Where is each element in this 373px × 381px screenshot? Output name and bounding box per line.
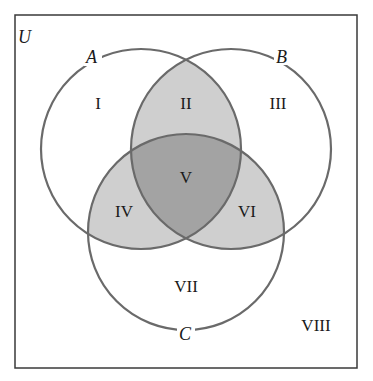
region-label-v: V <box>180 168 193 187</box>
region-label-vii: VII <box>174 277 198 296</box>
region-label-iii: III <box>270 94 287 113</box>
set-label-b: B <box>276 47 287 67</box>
region-label-i: I <box>95 94 101 113</box>
region-label-ii: II <box>180 94 192 113</box>
universe-label: U <box>18 27 32 47</box>
region-label-vi: VI <box>238 202 256 221</box>
region-label-iv: IV <box>115 202 134 221</box>
set-label-a: A <box>85 47 98 67</box>
set-label-c: C <box>179 324 192 344</box>
venn-diagram: U A B C I II III IV V VI VII VIII <box>0 0 373 381</box>
region-label-viii: VIII <box>301 316 331 335</box>
